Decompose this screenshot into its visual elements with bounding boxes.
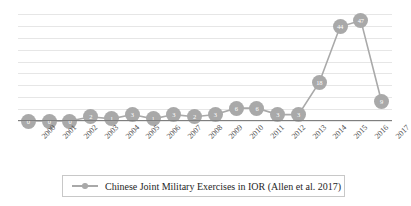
x-axis-tick-label: 2013 — [310, 123, 328, 141]
x-axis-tick-label: 2003 — [102, 123, 120, 141]
series-polyline — [28, 20, 381, 121]
x-axis-tick-label: 2004 — [123, 123, 141, 141]
data-point-marker: 44 — [333, 19, 348, 34]
x-axis-tick-label: 2007 — [186, 123, 204, 141]
x-axis-tick-label: 2012 — [289, 123, 307, 141]
plot-area: 000213132366331844479 — [18, 14, 392, 121]
chart-legend: Chinese Joint Military Exercises in IOR … — [62, 175, 345, 197]
data-point-marker: 6 — [229, 101, 244, 116]
x-axis-tick-label: 2010 — [248, 123, 266, 141]
x-axis-tick-label: 2006 — [165, 123, 183, 141]
data-point-marker: 18 — [312, 75, 327, 90]
legend-entry-label: Chinese Joint Military Exercises in IOR … — [105, 181, 341, 192]
x-axis-tick-labels: 2000200120022003200420052006200720082009… — [18, 121, 392, 161]
x-axis-tick-label: 2014 — [331, 123, 349, 141]
x-axis-tick-label: 2009 — [227, 123, 245, 141]
line-marker-icon — [72, 180, 98, 192]
x-axis-tick-label: 2017 — [393, 123, 411, 141]
x-axis-tick-label: 2015 — [352, 123, 370, 141]
x-axis-tick-label: 2011 — [269, 123, 286, 140]
x-axis-tick-label: 2002 — [82, 123, 100, 141]
x-axis-tick-label: 2000 — [40, 123, 58, 141]
x-axis-tick-label: 2016 — [373, 123, 391, 141]
x-axis-tick-label: 2005 — [144, 123, 162, 141]
x-axis-tick-label: 2001 — [61, 123, 79, 141]
x-axis-tick-label: 2008 — [206, 123, 224, 141]
